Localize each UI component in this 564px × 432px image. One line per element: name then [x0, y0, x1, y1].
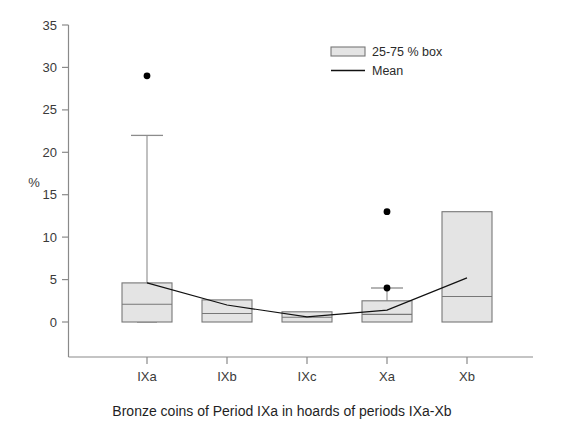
- outlier-xa-13: [384, 208, 391, 215]
- y-tick-label-15: 15: [43, 187, 57, 202]
- legend-label-mean: Mean: [372, 64, 403, 78]
- x-tick-label-xa: Xa: [379, 369, 396, 384]
- y-axis-title: %: [28, 175, 40, 190]
- legend-swatch-box: [331, 47, 365, 56]
- legend-label-box: 25-75 % box: [372, 45, 443, 59]
- x-axis: IXa IXb IXc Xa Xb: [69, 357, 534, 384]
- x-tick-label-ixc: IXc: [298, 369, 317, 384]
- boxplot-figure: 35 30 25 20 15 10 5 0 % IXa IXb IXc Xa X…: [0, 0, 564, 432]
- chart-caption: Bronze coins of Period IXa in hoards of …: [112, 403, 452, 419]
- mean-series-line: [147, 278, 467, 317]
- box-ixb: [202, 300, 252, 322]
- y-tick-label-10: 10: [43, 230, 57, 245]
- legend: 25-75 % box Mean: [331, 45, 443, 78]
- y-tick-label-0: 0: [50, 315, 57, 330]
- box-group-ixa: [122, 72, 172, 322]
- y-tick-label-30: 30: [43, 60, 57, 75]
- x-tick-label-ixb: IXb: [217, 369, 237, 384]
- box-ixa: [122, 283, 172, 322]
- y-axis: 35 30 25 20 15 10 5 0 %: [28, 18, 68, 358]
- y-tick-label-35: 35: [43, 18, 57, 33]
- box-group-ixb: [202, 300, 252, 322]
- x-tick-label-xb: Xb: [459, 369, 475, 384]
- y-tick-label-20: 20: [43, 145, 57, 160]
- box-group-xa: [362, 208, 412, 322]
- x-tick-label-ixa: IXa: [137, 369, 157, 384]
- y-tick-label-5: 5: [50, 272, 57, 287]
- boxplot-canvas: 35 30 25 20 15 10 5 0 % IXa IXb IXc Xa X…: [0, 0, 564, 432]
- box-xb: [442, 212, 492, 322]
- y-tick-label-25: 25: [43, 102, 57, 117]
- outlier-ixa-29: [144, 72, 151, 79]
- outlier-xa-4: [384, 285, 391, 292]
- box-group-xb: [442, 212, 492, 322]
